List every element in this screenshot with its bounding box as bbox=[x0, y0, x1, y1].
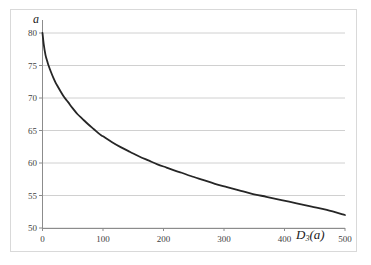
x-axis-title-base: D bbox=[296, 227, 305, 242]
xtick-label-400: 400 bbox=[270, 235, 300, 244]
xtick-label-0: 0 bbox=[28, 235, 58, 244]
ytick-label-50: 50 bbox=[15, 224, 37, 233]
chart-plot-area bbox=[0, 0, 371, 265]
gridlines bbox=[42, 33, 345, 228]
ytick-label-65: 65 bbox=[15, 127, 37, 136]
xtick-label-200: 200 bbox=[149, 235, 179, 244]
x-axis-title: D3(a) bbox=[296, 228, 325, 243]
ytick-label-75: 75 bbox=[15, 62, 37, 71]
y-axis-title: a bbox=[33, 13, 39, 25]
chart-figure: 80 75 70 65 60 55 50 0 100 200 300 400 5… bbox=[0, 0, 371, 265]
ytick-label-60: 60 bbox=[15, 159, 37, 168]
xtick-label-500: 500 bbox=[330, 235, 360, 244]
xtick-label-100: 100 bbox=[88, 235, 118, 244]
data-series-curve bbox=[43, 33, 346, 215]
y-axis-ticks bbox=[39, 33, 42, 228]
ytick-label-55: 55 bbox=[15, 192, 37, 201]
ytick-label-70: 70 bbox=[15, 94, 37, 103]
ytick-label-80: 80 bbox=[15, 29, 37, 38]
x-axis-title-arg: (a) bbox=[309, 227, 324, 242]
xtick-label-300: 300 bbox=[209, 235, 239, 244]
